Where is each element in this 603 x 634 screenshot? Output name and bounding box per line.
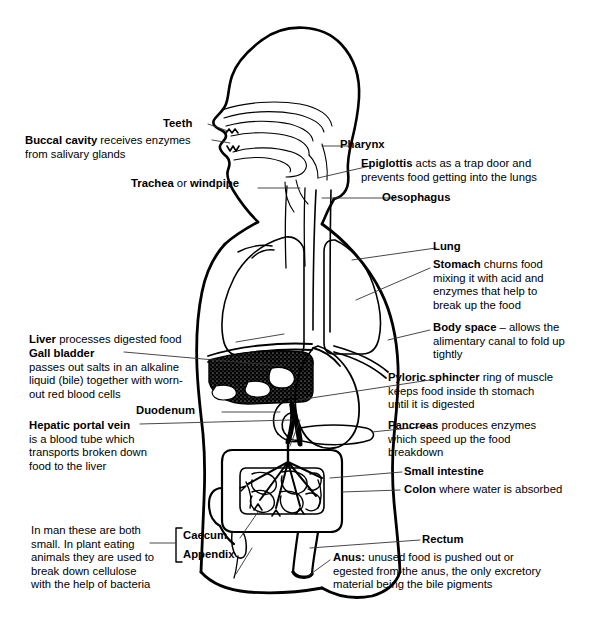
small-intestine (240, 440, 322, 516)
leader-teeth (208, 124, 228, 131)
label-pharynx: Pharynx (340, 138, 385, 152)
label-liver: Liver processes digested food (29, 333, 182, 347)
label-body-space: Body space – allows the alimentary canal… (433, 321, 565, 362)
label-stomach: Stomach churns food mixing it with acid … (433, 258, 544, 312)
trachea (285, 186, 305, 268)
label-colon: Colon where water is absorbed (404, 483, 562, 497)
leader-colon (342, 490, 400, 492)
label-epiglottis: Epiglottis acts as a trap door and preve… (361, 157, 537, 184)
label-duodenum: Duodenum (136, 404, 195, 418)
label-caecum: Caecum (183, 529, 227, 543)
label-lung: Lung (433, 240, 461, 254)
label-anus: Anus: unused food is pushed out or egest… (333, 551, 541, 592)
label-gall-bladder: Gall bladder passes out salts in an alka… (29, 347, 183, 401)
label-oesophagus: Oesophagus (382, 191, 450, 205)
label-trachea: Trachea or windpipe (131, 177, 239, 191)
label-caecum-appendix-note: In man these are both small. In plant ea… (31, 524, 154, 592)
leader-rectum (310, 540, 420, 548)
label-buccal-cavity: Buccal cavity receives enzymes from sali… (25, 134, 191, 161)
leader-stomach (356, 268, 430, 300)
label-pancreas: Pancreas produces enzymes which speed up… (388, 419, 536, 460)
label-hepatic-portal-vein: Hepatic portal vein is a blood tube whic… (29, 419, 147, 473)
leader-appendix (236, 548, 252, 574)
digestive-system-diagram: Teeth Buccal cavity receives enzymes fro… (0, 0, 603, 634)
caecum-appendix-bracket (176, 528, 182, 562)
leader-caecum (240, 512, 258, 538)
leader-liver (236, 334, 284, 342)
leader-anus (308, 560, 330, 576)
label-rectum: Rectum (422, 533, 463, 547)
label-pyloric-sphincter: Pyloric sphincter ring of muscle keeps f… (388, 371, 553, 412)
label-small-intestine: Small intestine (404, 465, 484, 479)
leader-lung (352, 248, 436, 260)
rectum (293, 532, 318, 577)
label-appendix: Appendix (183, 548, 234, 562)
leader-hepatic (140, 420, 292, 424)
label-teeth: Teeth (163, 117, 192, 131)
